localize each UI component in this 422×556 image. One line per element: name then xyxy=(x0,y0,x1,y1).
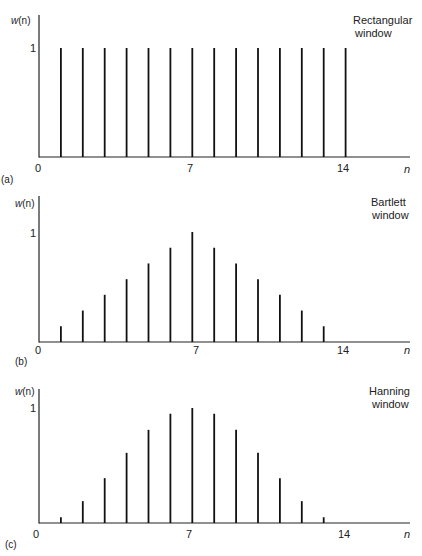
x-tick-7: 7 xyxy=(186,528,192,540)
chart-title-line2: window xyxy=(372,398,409,411)
x-tick-14: 14 xyxy=(338,528,350,540)
x-axis-label: n xyxy=(404,344,410,356)
chart-title-line2: window xyxy=(355,27,392,40)
x-axis-label: n xyxy=(404,528,410,540)
x-tick-0: 0 xyxy=(35,162,41,174)
panel-hanning: w(n) 1 Hanning window 0 7 14 n (c) xyxy=(0,370,422,556)
x-tick-0: 0 xyxy=(33,528,39,540)
y-tick-1: 1 xyxy=(30,402,36,414)
y-tick-1: 1 xyxy=(30,227,36,239)
y-axis-label: w(n) xyxy=(15,198,34,210)
y-tick-1: 1 xyxy=(30,42,36,54)
chart-title-line1: Hanning xyxy=(369,385,410,398)
panel-label: (b) xyxy=(15,356,27,368)
x-axis-label: n xyxy=(404,163,410,175)
chart-title-line1: Bartlett xyxy=(371,196,406,209)
chart-hanning xyxy=(0,370,422,556)
y-axis-label: w(n) xyxy=(15,386,34,398)
chart-title-line2: window xyxy=(372,209,409,222)
x-tick-0: 0 xyxy=(35,344,41,356)
panel-label: (c) xyxy=(5,539,17,551)
chart-title-line1: Rectangular xyxy=(353,14,412,27)
x-tick-14: 14 xyxy=(337,344,349,356)
y-axis-label: w(n) xyxy=(11,15,30,27)
panel-rectangular: w(n) 1 Rectangular window 0 7 14 n (a) xyxy=(0,0,422,185)
chart-bartlett xyxy=(0,185,422,370)
panel-bartlett: w(n) 1 Bartlett window 0 7 14 n (b) xyxy=(0,185,422,370)
x-tick-7: 7 xyxy=(193,344,199,356)
x-tick-7: 7 xyxy=(187,162,193,174)
x-tick-14: 14 xyxy=(337,162,349,174)
